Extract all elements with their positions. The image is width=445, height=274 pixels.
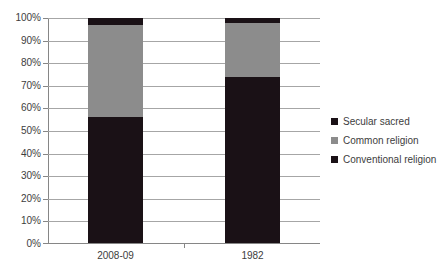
legend-label-common-religion: Common religion — [343, 135, 419, 146]
legend-label-conventional-religion: Conventional religion — [343, 154, 436, 165]
y-axis-label-50: 50% — [1, 126, 41, 136]
y-axis-label-100: 100% — [1, 13, 41, 23]
legend-label-secular-sacred: Secular sacred — [343, 116, 410, 127]
plot-area — [48, 18, 320, 243]
legend-item-secular-sacred: Secular sacred — [331, 112, 443, 131]
x-axis-tick-mid — [184, 243, 185, 248]
y-axis-label-90: 90% — [1, 36, 41, 46]
bar-segment — [225, 23, 280, 77]
legend-item-conventional-religion: Conventional religion — [331, 150, 443, 169]
y-axis-label-10: 10% — [1, 216, 41, 226]
y-axis-label-30: 30% — [1, 171, 41, 181]
y-axis-label-40: 40% — [1, 149, 41, 159]
x-axis-label-2008-09: 2008-09 — [73, 250, 158, 261]
y-axis-labels: 100% 90% 80% 70% 60% 50% 40% 30% 20% 10%… — [0, 18, 41, 244]
bar-segment — [88, 25, 143, 117]
bar-segment — [88, 18, 143, 25]
bar-segment — [225, 18, 280, 23]
legend-swatch-icon-secular-sacred — [331, 118, 338, 125]
y-axis-label-20: 20% — [1, 194, 41, 204]
y-axis-label-60: 60% — [1, 103, 41, 113]
legend-item-common-religion: Common religion — [331, 131, 443, 150]
y-axis-label-80: 80% — [1, 58, 41, 68]
y-axis-label-70: 70% — [1, 81, 41, 91]
y-axis-label-0: 0% — [1, 239, 41, 249]
chart-legend: Secular sacred Common religion Conventio… — [331, 112, 443, 169]
bar-segment — [225, 77, 280, 244]
bar-segment — [88, 117, 143, 243]
stacked-bar-chart: 100% 90% 80% 70% 60% 50% 40% 30% 20% 10%… — [0, 0, 445, 274]
legend-swatch-icon-common-religion — [331, 137, 338, 144]
legend-swatch-icon-conventional-religion — [331, 156, 338, 163]
x-axis-label-1982: 1982 — [210, 250, 295, 261]
